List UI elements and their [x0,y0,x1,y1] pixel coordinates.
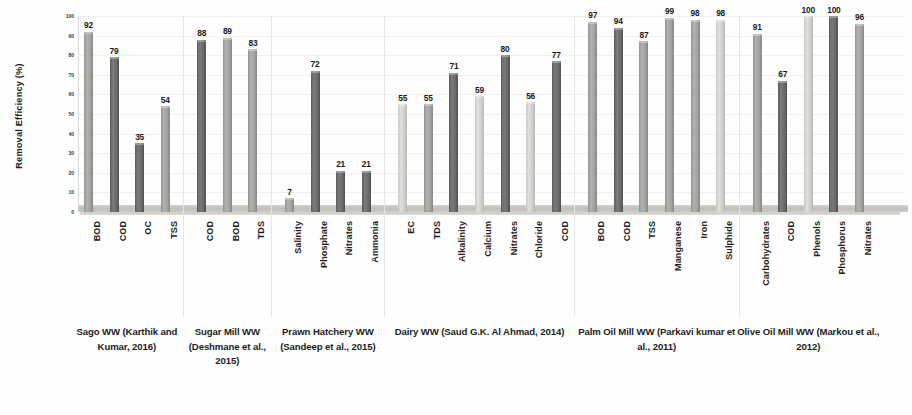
bar-ec-11[interactable]: 55 [398,104,407,212]
x-axis-label-bod-18: BOD [596,221,606,316]
x-axis-label-calcium-14: Calcium [483,221,493,316]
x-axis-label-nitrates-9: Nitrates [344,221,354,316]
x-axis-label-sulphide-23: Sulphide [724,221,734,316]
x-axis-label-bod-0: BOD [92,221,102,316]
bar-bod-0[interactable]: 92 [84,32,93,212]
bar-manganese-21[interactable]: 99 [665,18,674,212]
y-axis-tick-100: 100 [66,13,74,19]
bar-phosphate-8[interactable]: 72 [311,71,320,212]
bar-value-label: 100 [802,5,815,15]
x-axis-label-nitrates-15: Nitrates [509,221,519,316]
bar-cod-4[interactable]: 88 [197,40,206,212]
bar-value-label: 77 [552,50,561,60]
group-caption-0: Sago WW (Karthik and Kumar, 2016) [67,325,187,354]
bar-carbohydrates-24[interactable]: 91 [753,34,762,212]
group-caption-5: Olive Oil Mill WW (Markou et al., 2012) [736,325,881,354]
bar-value-label: 56 [526,91,535,101]
bar-value-label: 96 [855,12,864,22]
bar-value-label: 92 [84,20,93,30]
group-caption-4: Palm Oil Mill WW (Parkavi kumar et al., … [571,325,742,354]
bar-sulphide-23[interactable]: 98 [716,20,725,212]
bar-tds-12[interactable]: 55 [424,104,433,212]
x-axis-label-tss-3: TSS [169,221,179,316]
bar-value-label: 7 [287,187,291,197]
bar-value-label: 100 [827,5,840,15]
bar-nitrates-15[interactable]: 80 [501,55,510,212]
x-axis-label-ec-11: EC [406,221,416,316]
bar-cod-1[interactable]: 79 [110,57,119,212]
y-axis-tick-60: 60 [69,91,74,97]
bar-nitrates-9[interactable]: 21 [336,171,345,212]
bar-alkalinity-13[interactable]: 71 [449,73,458,212]
bar-chart-figure: Removal Efficiency (%) 10090807060504030… [0,0,912,415]
bar-value-label: 21 [362,159,371,169]
bar-tss-3[interactable]: 54 [161,106,170,212]
bar-value-label: 21 [336,159,345,169]
bar-cod-19[interactable]: 94 [614,28,623,212]
group-separator [271,16,272,316]
x-axis-label-bod-5: BOD [231,221,241,316]
bar-value-label: 71 [449,61,458,71]
group-separator [739,16,740,316]
bar-value-label: 87 [639,30,648,40]
x-axis-label-ammonia-10: Ammonia [370,221,380,316]
bar-value-label: 55 [424,93,433,103]
bar-value-label: 89 [223,26,232,36]
bar-phosphorus-27[interactable]: 100 [829,16,838,212]
bar-value-label: 79 [110,46,119,56]
bar-iron-22[interactable]: 98 [691,20,700,212]
bar-phenols-26[interactable]: 100 [804,16,813,212]
group-separator [384,16,385,316]
x-axis-label-nitrates-28: Nitrates [863,221,873,316]
x-axis-label-alkalinity-13: Alkalinity [457,221,467,316]
y-axis-tick-40: 40 [69,131,74,137]
bar-tds-6[interactable]: 83 [248,49,257,212]
y-axis-tick-20: 20 [69,170,74,176]
bar-cod-25[interactable]: 67 [778,81,787,212]
x-axis-label-cod-4: COD [205,221,215,316]
bar-value-label: 99 [665,6,674,16]
bar-series: 9279355488898377221215555715980567797948… [78,16,904,212]
y-axis-tick-90: 90 [69,33,74,39]
group-caption-1: Sugar Mill WW (Deshmane et al., 2015) [180,325,274,369]
bar-value-label: 88 [197,28,206,38]
x-axis-label-tds-6: TDS [256,221,266,316]
bar-value-label: 98 [716,8,725,18]
x-axis-label-salinity-7: Salinity [293,221,303,316]
group-captions: Sago WW (Karthik and Kumar, 2016)Sugar M… [78,325,908,415]
y-axis-tick-labels: 1009080706050403020100 [52,16,76,212]
bar-calcium-14[interactable]: 59 [475,96,484,212]
bar-chloride-16[interactable]: 56 [526,102,535,212]
y-axis-tick-70: 70 [69,72,74,78]
x-axis-label-cod-25: COD [786,221,796,316]
x-axis-label-cod-1: COD [118,221,128,316]
x-axis-label-tss-20: TSS [647,221,657,316]
bar-value-label: 35 [135,132,144,142]
x-axis-category-labels: BODCODOCTSSCODBODTDSSalinityPhosphateNit… [78,221,904,316]
bar-value-label: 97 [588,10,597,20]
y-axis-tick-50: 50 [69,111,74,117]
group-caption-2: Prawn Hatchery WW (Sandeep et al., 2015) [268,325,388,354]
y-axis-title: Removal Efficiency (%) [6,18,32,213]
x-axis-label-chloride-16: Chloride [534,221,544,316]
x-axis-label-oc-2: OC [143,221,153,316]
x-axis-label-phosphate-8: Phosphate [319,221,329,316]
group-separator [183,16,184,316]
y-axis-title-text: Removal Efficiency (%) [14,63,24,169]
y-axis-tick-0: 0 [71,209,74,215]
bar-bod-5[interactable]: 89 [223,38,232,212]
bar-bod-18[interactable]: 97 [588,22,597,212]
x-axis-label-phosphorus-27: Phosphorus [837,221,847,316]
bar-salinity-7[interactable]: 7 [285,198,294,212]
bar-nitrates-28[interactable]: 96 [855,24,864,212]
x-axis-label-carbohydrates-24: Carbohydrates [761,221,771,316]
x-axis-label-manganese-21: Manganese [673,221,683,316]
bar-value-label: 55 [398,93,407,103]
bar-cod-17[interactable]: 77 [552,61,561,212]
bar-ammonia-10[interactable]: 21 [362,171,371,212]
group-separator [574,16,575,316]
bar-oc-2[interactable]: 35 [135,143,144,212]
x-axis-label-tds-12: TDS [432,221,442,316]
bar-value-label: 54 [161,95,170,105]
bar-tss-20[interactable]: 87 [639,41,648,212]
